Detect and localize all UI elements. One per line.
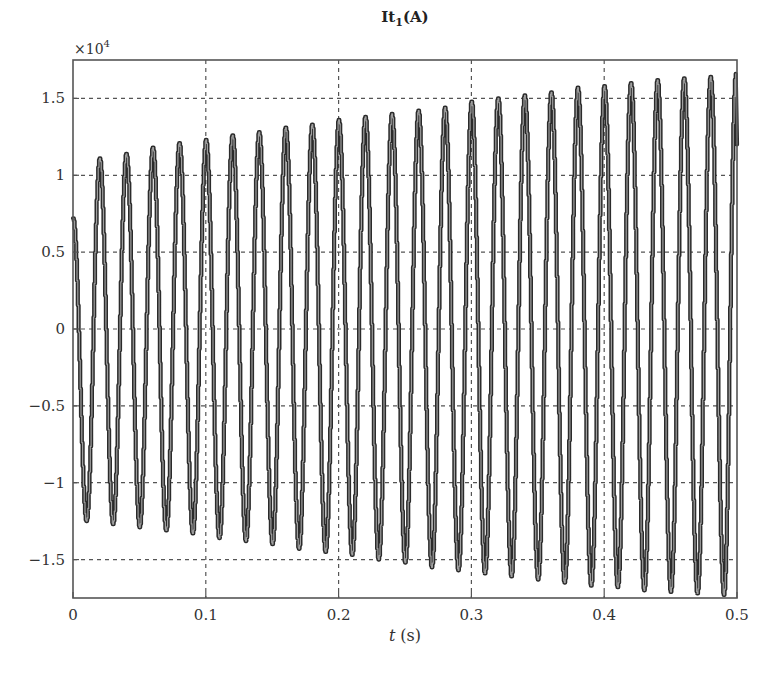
y-tick-label: 1 bbox=[55, 166, 65, 184]
current-trace bbox=[73, 74, 737, 595]
y-tick-label: −1.5 bbox=[29, 551, 65, 569]
y-multiplier-base: ×10 bbox=[74, 41, 104, 57]
chart-title: It1(A) bbox=[381, 8, 428, 29]
x-axis-label: t(s) bbox=[389, 626, 421, 645]
chart-title-subscript: 1 bbox=[395, 16, 403, 29]
x-axis-label-var: t bbox=[389, 626, 396, 645]
x-tick-label: 0.3 bbox=[459, 606, 483, 624]
y-tick-label: 0 bbox=[55, 320, 65, 338]
x-tick-label: 0.4 bbox=[592, 606, 616, 624]
chart-title-main: It bbox=[381, 8, 395, 26]
y-tick-label: −0.5 bbox=[29, 397, 65, 415]
x-tick-label: 0 bbox=[68, 606, 78, 624]
x-axis-ticks: 00.10.20.30.40.5 bbox=[68, 592, 749, 624]
y-multiplier-exponent: 4 bbox=[104, 38, 110, 49]
x-tick-label: 0.2 bbox=[327, 606, 351, 624]
y-tick-label: −1 bbox=[43, 474, 65, 492]
x-tick-label: 0.5 bbox=[725, 606, 749, 624]
x-tick-label: 0.1 bbox=[194, 606, 218, 624]
y-multiplier: ×104 bbox=[74, 38, 110, 57]
line-chart: 00.10.20.30.40.5 1.510.50−0.5−1−1.5 It1(… bbox=[0, 0, 771, 676]
x-axis-label-unit: (s) bbox=[400, 626, 421, 645]
y-axis-ticks: 1.510.50−0.5−1−1.5 bbox=[29, 89, 79, 568]
chart-title-unit: (A) bbox=[403, 8, 429, 26]
y-tick-label: 1.5 bbox=[41, 89, 65, 107]
y-tick-label: 0.5 bbox=[41, 243, 65, 261]
